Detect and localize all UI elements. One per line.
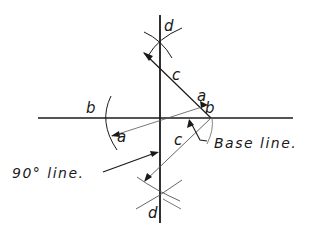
- perpendicular-construction-diagram: d d c c a a b b Base line. 90° line.: [0, 0, 332, 235]
- label-b-right: b: [205, 99, 215, 117]
- label-base-line: Base line.: [214, 135, 297, 151]
- line-c-upper: [144, 53, 211, 118]
- arc-d-lower-2: [136, 180, 182, 209]
- label-ninety-line: 90° line.: [12, 165, 84, 181]
- arrowhead-c-lower: [144, 173, 152, 182]
- label-c-upper: c: [172, 66, 181, 84]
- label-c-lower: c: [174, 131, 183, 149]
- ninety-line-leader: [103, 153, 155, 172]
- label-d-bottom: d: [148, 204, 158, 222]
- arc-d-lower-1: [137, 177, 180, 201]
- arrowhead-ninety-line: [150, 151, 159, 157]
- arc-b-right: [207, 118, 212, 144]
- arc-b-left: [106, 96, 117, 150]
- label-d-top: d: [164, 17, 174, 35]
- label-a-left: a: [117, 128, 126, 146]
- line-c-lower: [145, 118, 211, 181]
- label-b-left: b: [86, 99, 96, 117]
